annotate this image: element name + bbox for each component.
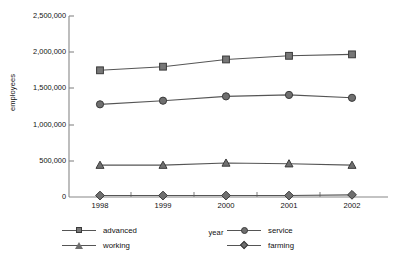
employees-line-chart: employees 2,500,000 2,000,000 1,500,000 …: [0, 0, 395, 264]
legend-label: service: [268, 226, 293, 235]
data-point-service-2002: [348, 94, 355, 101]
data-point-service-2000: [222, 93, 229, 100]
y-axis-ticks: [69, 16, 74, 161]
data-point-advanced-2001: [286, 52, 293, 59]
x-tick-label: 1998: [80, 201, 120, 210]
data-point-advanced-1999: [160, 63, 167, 70]
axis-lines: [69, 16, 388, 197]
x-tick-label: 2000: [206, 201, 246, 210]
data-point-service-2001: [285, 91, 292, 98]
data-point-farming-1998: [96, 191, 105, 200]
legend-item-working[interactable]: working: [62, 240, 130, 250]
legend-item-advanced[interactable]: advanced: [62, 225, 137, 235]
legend-item-farming[interactable]: farming: [227, 240, 294, 250]
legend-item-service[interactable]: service: [227, 225, 293, 235]
data-point-service-1998: [96, 101, 103, 108]
data-point-advanced-2002: [349, 51, 356, 58]
data-point-advanced-2000: [223, 56, 230, 63]
chart-legend: advanced working service farming: [62, 225, 392, 263]
legend-marker-diamond: [227, 240, 261, 250]
series-markers: [96, 51, 357, 200]
plot-area: [0, 0, 395, 212]
legend-label: farming: [268, 241, 294, 250]
data-point-advanced-1998: [97, 67, 104, 74]
legend-marker-circle: [227, 225, 261, 235]
data-point-farming-2002: [348, 190, 357, 199]
data-point-farming-2000: [222, 191, 231, 200]
data-point-service-1999: [159, 97, 166, 104]
x-tick-label: 2001: [269, 201, 309, 210]
series-polylines: [100, 54, 352, 195]
x-tick-label: 2002: [332, 201, 372, 210]
legend-marker-square: [62, 225, 96, 235]
data-point-farming-2001: [285, 191, 294, 200]
legend-label: advanced: [103, 226, 137, 235]
legend-label: working: [103, 241, 130, 250]
x-tick-label: 1999: [143, 201, 183, 210]
data-point-farming-1999: [159, 191, 168, 200]
legend-marker-triangle: [62, 240, 96, 250]
